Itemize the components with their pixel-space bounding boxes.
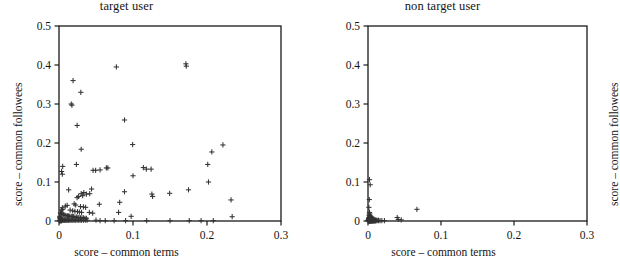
y-tick-label: 0	[45, 215, 51, 227]
data-point	[114, 64, 119, 69]
data-point	[116, 210, 121, 215]
data-point	[68, 207, 73, 212]
data-point	[144, 218, 149, 223]
data-point	[69, 103, 74, 108]
data-point	[90, 211, 95, 216]
x-tick-label: 0.3	[274, 229, 289, 241]
data-point	[230, 214, 235, 219]
data-point	[117, 200, 122, 205]
data-point	[209, 149, 214, 154]
y-tick-label: 0.5	[346, 20, 361, 32]
x-tick-label: 0.2	[200, 229, 215, 241]
y-axis-label-non-target-user: score – common followees	[608, 82, 620, 206]
data-point	[414, 207, 419, 212]
data-point	[198, 218, 203, 223]
data-point	[187, 218, 192, 223]
x-tick-label: 0.1	[126, 229, 141, 241]
data-point	[382, 218, 387, 223]
data-point-group	[57, 61, 235, 223]
data-point	[79, 147, 84, 152]
data-point	[69, 101, 74, 106]
data-point	[60, 172, 65, 177]
data-point	[89, 186, 94, 191]
panel-target-user: target user 00.10.20.300.10.20.30.40.5 s…	[0, 0, 297, 260]
plot-area-non-target-user: 00.10.20.300.10.20.30.40.5	[297, 0, 594, 260]
y-tick-label: 0.3	[346, 98, 361, 110]
data-point	[366, 205, 371, 210]
x-axis-label-non-target-user: score – common terms	[295, 246, 592, 258]
y-tick-label: 0	[354, 215, 360, 227]
x-tick-label: 0.2	[507, 229, 522, 241]
data-point	[220, 142, 225, 147]
x-tick-label: 0	[56, 229, 62, 241]
x-tick-label: 0.1	[434, 229, 449, 241]
data-point	[66, 187, 71, 192]
data-point	[129, 214, 134, 219]
y-tick-label: 0.1	[37, 176, 52, 188]
y-tick-label: 0.4	[346, 59, 361, 71]
panel-non-target-user: non target user 00.10.20.300.10.20.30.40…	[297, 0, 594, 260]
data-point	[206, 179, 211, 184]
data-point	[186, 187, 191, 192]
y-tick-label: 0.3	[37, 98, 52, 110]
x-axis-label-target-user: score – common terms	[0, 246, 275, 258]
data-point	[112, 218, 117, 223]
data-point	[97, 167, 102, 172]
y-tick-label: 0.2	[37, 137, 52, 149]
x-tick-label: 0.3	[580, 229, 594, 241]
data-point	[228, 197, 233, 202]
data-point	[97, 218, 102, 223]
data-point	[123, 218, 128, 223]
data-point	[149, 167, 154, 172]
data-point	[103, 218, 108, 223]
data-point	[122, 189, 127, 194]
data-point	[93, 168, 98, 173]
x-tick-label: 0	[365, 229, 371, 241]
data-point-group	[366, 177, 420, 223]
data-point	[87, 210, 92, 215]
data-point	[97, 202, 102, 207]
y-axis-label-target-user: score – common followees	[12, 82, 24, 206]
data-point	[87, 191, 92, 196]
plot-frame	[368, 26, 587, 221]
data-point	[130, 142, 135, 147]
data-point	[167, 218, 172, 223]
y-tick-label: 0.2	[346, 137, 361, 149]
data-point	[60, 164, 65, 169]
data-point	[167, 191, 172, 196]
data-point	[130, 173, 135, 178]
data-point	[205, 162, 210, 167]
data-point	[74, 162, 79, 167]
data-point	[75, 123, 80, 128]
data-point	[78, 90, 83, 95]
data-point	[59, 169, 64, 174]
data-point	[211, 218, 216, 223]
plot-area-target-user: 00.10.20.300.10.20.30.40.5	[0, 0, 297, 260]
y-tick-label: 0.4	[37, 59, 52, 71]
data-point	[70, 78, 75, 83]
data-point	[122, 117, 127, 122]
y-tick-label: 0.5	[37, 20, 52, 32]
y-tick-label: 0.1	[346, 176, 361, 188]
